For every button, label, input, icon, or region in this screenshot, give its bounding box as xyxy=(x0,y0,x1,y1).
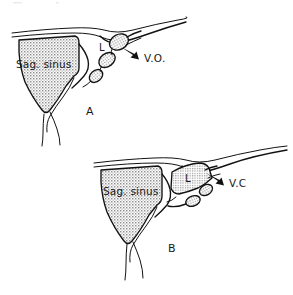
panel-a-sinus-label: Sag. sinus xyxy=(16,58,72,70)
panel-a-lacuna-label: L xyxy=(99,42,105,53)
panel-a-letter: A xyxy=(86,105,94,118)
top-crop-artifacts xyxy=(13,2,59,3)
panel-b: Sag. sinus L V.C B xyxy=(92,146,287,280)
panel-a-vein-label: V.O. xyxy=(144,52,166,64)
lacuna-node-b2 xyxy=(184,194,202,209)
panel-a-arrow-icon xyxy=(121,47,139,60)
panel-b-vein-label: V.C xyxy=(229,177,246,189)
figure-container: Sag. sinus L V.O. A xyxy=(0,0,293,295)
lacuna-node-1 xyxy=(107,31,132,54)
panel-b-sinus-label: Sag. sinus xyxy=(103,185,159,197)
panel-b-lacuna-label: L xyxy=(185,173,191,184)
panel-a: Sag. sinus L V.O. A xyxy=(10,17,187,146)
anatomical-diagram-svg: Sag. sinus L V.O. A xyxy=(0,0,293,295)
panel-b-letter: B xyxy=(168,242,176,255)
